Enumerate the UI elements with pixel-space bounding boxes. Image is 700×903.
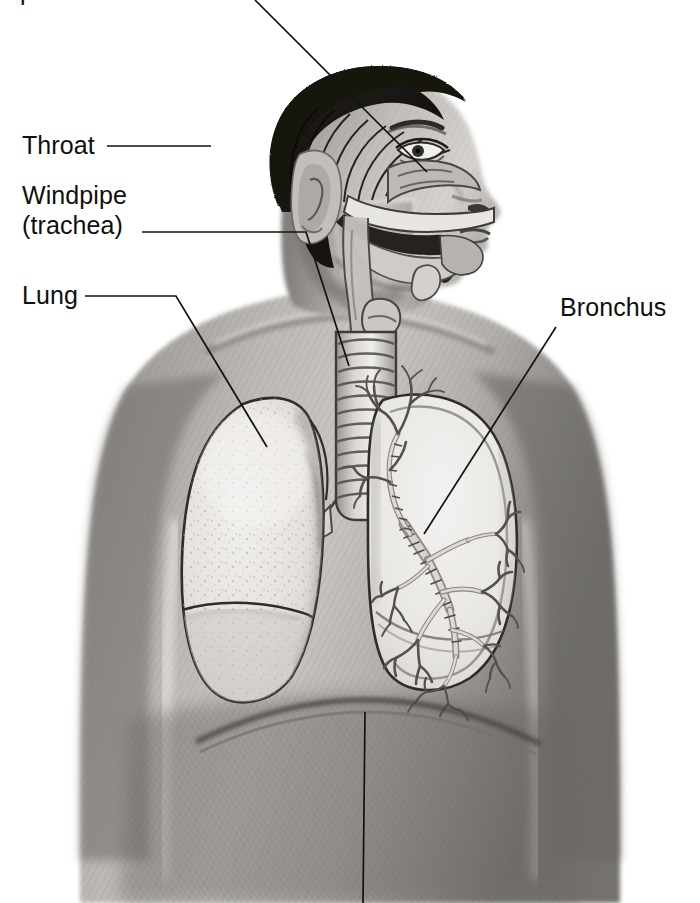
- label-windpipe: Windpipe(trachea): [22, 180, 127, 240]
- label-windpipe-line2: (trachea): [22, 211, 123, 239]
- label-lung: Lung: [22, 280, 78, 310]
- diagram-page: p: [0, 0, 700, 903]
- label-bronchus: Bronchus: [560, 292, 666, 322]
- epiglottis: [412, 265, 441, 300]
- label-throat: Throat: [22, 130, 95, 160]
- respiratory-system-illustration: [0, 0, 700, 903]
- label-windpipe-line1: Windpipe: [22, 181, 127, 209]
